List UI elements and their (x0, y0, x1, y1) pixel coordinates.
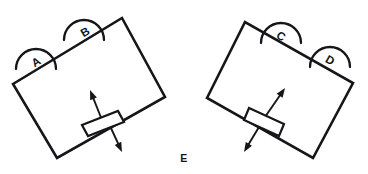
figure-caption-label: E (180, 152, 187, 164)
right-arrow-down-head (244, 142, 252, 152)
right-arrow-down (244, 127, 259, 152)
rotation-arc-d-label: D (323, 53, 336, 68)
right-arrow-down-shaft (248, 127, 259, 146)
diagram-canvas: ABCDE (0, 0, 368, 174)
left-plate-assembly: AB (13, 18, 165, 158)
left-plate (13, 18, 165, 158)
right-plate (207, 22, 353, 158)
left-arrow-down (110, 126, 122, 152)
right-plate-assembly: CD (207, 22, 353, 158)
left-arrow-down-head (115, 142, 122, 152)
left-arrow-down-shaft (110, 126, 119, 145)
physics-diagram-figure: ABCDE (0, 0, 368, 174)
